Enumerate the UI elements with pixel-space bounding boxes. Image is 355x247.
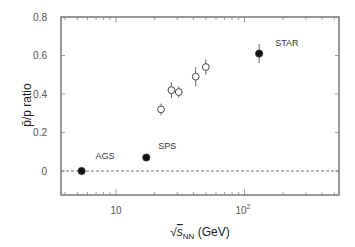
x-tick-10: 10 (110, 205, 122, 216)
data-point (192, 73, 199, 80)
point-label-sps: SPS (158, 141, 176, 151)
data-point (168, 87, 175, 94)
data-point (175, 89, 182, 96)
data-point (202, 64, 209, 71)
y-tick-0.8: 0.8 (33, 12, 47, 23)
data-point (158, 106, 165, 113)
y-axis-title: p̄/p ratio (20, 83, 34, 127)
y-tick-0.4: 0.4 (33, 89, 47, 100)
y-tick-0: 0 (41, 166, 47, 177)
data-point (143, 154, 150, 161)
y-tick-0.6: 0.6 (33, 50, 47, 61)
data-point (256, 50, 263, 57)
ratio-chart: 0.8 0.6 0.4 0.2 0 10 102 √sNN (GeV) p̄/p… (0, 0, 355, 247)
point-label-ags: AGS (96, 151, 115, 161)
x-tick-100: 102 (235, 203, 250, 216)
data-point (78, 167, 85, 174)
y-tick-0.2: 0.2 (33, 127, 47, 138)
point-label-star: STAR (275, 38, 299, 48)
x-axis-title: √sNN (GeV) (170, 225, 230, 241)
point-labels: AGSSPSSTAR (96, 38, 299, 161)
